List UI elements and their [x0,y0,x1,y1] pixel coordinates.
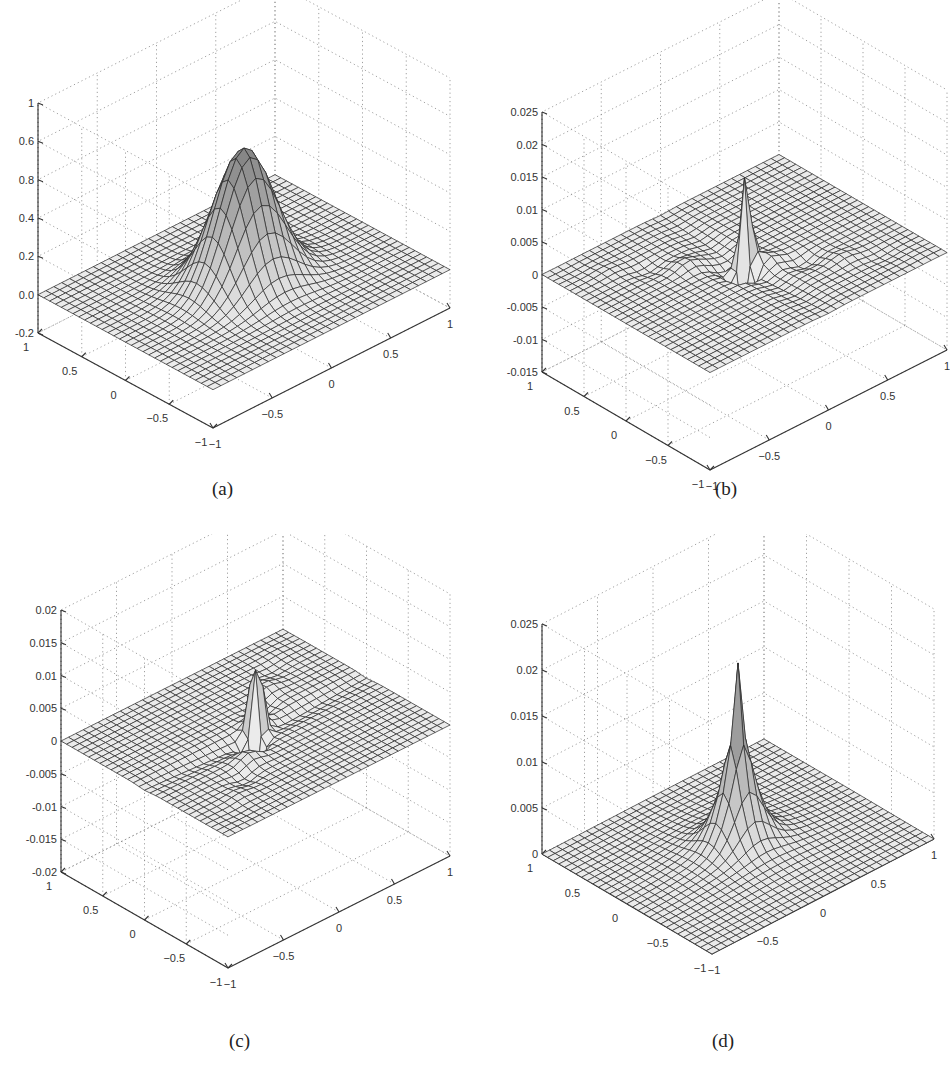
z-tick-label: 0 [51,735,57,747]
x-tick-label: 0.5 [387,894,402,906]
z-tick-label: 0.8 [19,174,34,186]
surface-plot-a: -0.20.00.20.40.80.61−1−0.500.51−1−0.500.… [0,0,475,534]
y-tick-label: 0.5 [83,904,98,916]
x-tick-label: −0.5 [757,935,779,947]
x-tick-label: 1 [447,866,453,878]
caption-b: (b) [715,478,737,500]
z-tick-label: 0.015 [510,171,538,183]
subplot-b: -0.015-0.01-0.00500.0050.010.0150.020.02… [475,0,950,534]
z-tick-label: 0.02 [517,664,538,676]
x-tick-label: −1 [224,978,237,990]
y-tick-label: −0.5 [146,412,168,424]
y-tick-label: 0 [611,429,617,441]
z-tick-label: 0.2 [19,250,34,262]
y-tick-label: 0.5 [62,365,77,377]
y-tick-label: −1 [195,436,208,448]
y-tick-label: −1 [210,976,223,988]
z-tick-label: 0.0 [19,289,34,301]
y-tick-label: 0.5 [565,887,580,899]
z-tick-label: -0.005 [26,768,57,780]
y-tick-label: 0 [612,912,618,924]
z-tick-label: 0 [532,848,538,860]
z-tick-label: 0.01 [36,670,57,682]
y-tick-label: −0.5 [647,937,669,949]
x-tick-label: −1 [209,438,222,450]
y-tick-label: 1 [527,862,533,874]
z-tick-label: -0.015 [26,833,57,845]
x-tick-label: 0 [820,907,826,919]
caption-d: (d) [712,1030,734,1052]
z-tick-label: -0.02 [32,866,57,878]
z-tick-label: 0.015 [510,710,538,722]
y-tick-label: 1 [23,341,29,353]
z-tick-label: -0.01 [32,801,57,813]
x-tick-label: 1 [447,318,453,330]
z-tick-label: 1 [28,97,34,109]
z-tick-label: -0.005 [507,301,538,313]
z-tick-label: 0.01 [517,756,538,768]
y-tick-label: −0.5 [163,952,185,964]
y-tick-label: −0.5 [645,454,667,466]
x-tick-label: 0.5 [880,390,895,402]
subplot-a: -0.20.00.20.40.80.61−1−0.500.51−1−0.500.… [0,0,475,534]
x-tick-label: 0 [328,378,334,390]
x-tick-label: 1 [944,360,950,372]
z-tick-label: -0.015 [507,366,538,378]
x-tick-label: 1 [931,849,937,861]
surface-mesh [542,155,947,373]
x-tick-label: 0 [825,420,831,432]
z-tick-label: 0.02 [517,139,538,151]
y-tick-label: 1 [527,380,533,392]
x-tick-label: 0.5 [871,878,886,890]
surface-mesh [61,629,450,837]
y-tick-label: −1 [692,478,705,490]
z-tick-label: 0.025 [510,618,538,630]
z-tick-label: 0.005 [510,802,538,814]
x-tick-label: −0.5 [758,450,780,462]
z-tick-label: 0.6 [19,135,34,147]
y-tick-label: 0 [129,928,135,940]
x-tick-label: −0.5 [261,408,283,420]
y-tick-label: 0.5 [564,405,579,417]
z-tick-label: -0.2 [15,327,34,339]
surface-mesh [542,663,934,954]
surface-plot-c: -0.02-0.015-0.01-0.00500.0050.010.0150.0… [0,534,475,1068]
z-tick-label: 0 [532,269,538,281]
z-tick-label: 0.015 [29,637,57,649]
y-tick-label: 1 [46,880,52,892]
x-tick-label: −1 [708,964,721,976]
x-tick-label: 0 [336,922,342,934]
caption-c: (c) [229,1030,250,1052]
surface-plot-b: -0.015-0.01-0.00500.0050.010.0150.020.02… [475,0,950,534]
x-tick-label: −0.5 [273,950,295,962]
z-tick-label: 0.4 [19,212,34,224]
z-tick-label: 0.02 [36,604,57,616]
subplot-c: -0.02-0.015-0.01-0.00500.0050.010.0150.0… [0,534,475,1068]
z-tick-label: 0.01 [517,204,538,216]
x-tick-label: 0.5 [383,348,398,360]
subplot-d: 00.0050.010.0150.020.025−1−0.500.51−1−0.… [475,534,950,1068]
z-tick-label: 0.005 [29,702,57,714]
caption-a: (a) [212,478,233,500]
y-tick-label: −1 [694,962,707,974]
surface-plot-d: 00.0050.010.0150.020.025−1−0.500.51−1−0.… [475,534,950,1068]
z-tick-label: -0.01 [513,334,538,346]
y-tick-label: 0 [110,389,116,401]
z-tick-label: 0.025 [510,106,538,118]
z-tick-label: 0.005 [510,236,538,248]
